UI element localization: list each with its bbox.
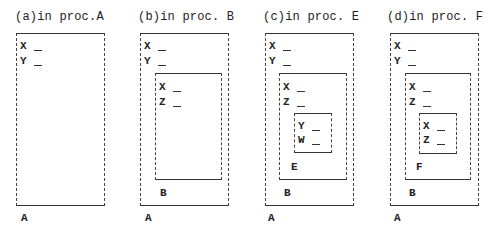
variable-x: X: [144, 40, 166, 52]
variable-z: Z: [423, 134, 445, 146]
value-slot: [283, 49, 291, 51]
value-slot: [34, 49, 42, 51]
variable-w: W: [298, 134, 320, 146]
variable-x: X: [159, 81, 181, 93]
scope-label-b: B: [284, 187, 291, 199]
panel-d-title: (d)in proc. F: [387, 10, 483, 24]
value-slot: [312, 143, 320, 145]
scope-label-e: E: [291, 161, 298, 173]
value-slot: [158, 49, 166, 51]
variable-x: X: [20, 40, 42, 52]
value-slot: [158, 64, 166, 66]
scope-label-b: B: [160, 187, 167, 199]
variable-z: Z: [409, 96, 431, 108]
scope-label-a: A: [21, 212, 28, 224]
value-slot: [297, 90, 305, 92]
variable-z: Z: [159, 96, 181, 108]
variable-y: Y: [394, 55, 416, 67]
scope-label-a: A: [394, 212, 401, 224]
variable-y: Y: [20, 55, 42, 67]
panel-b-title: (b)in proc. B: [138, 10, 234, 24]
value-slot: [312, 129, 320, 131]
panel-c-title: (c)in proc. E: [263, 10, 359, 24]
scope-label-a: A: [268, 212, 275, 224]
scope-label-f: F: [416, 161, 423, 173]
value-slot: [283, 64, 291, 66]
variable-z: Z: [283, 96, 305, 108]
scope-label-b: B: [409, 187, 416, 199]
panel-a-title: (a)in proc.A: [15, 10, 104, 24]
value-slot: [423, 90, 431, 92]
variable-x: X: [394, 40, 416, 52]
variable-x: X: [269, 40, 291, 52]
value-slot: [437, 143, 445, 145]
value-slot: [173, 90, 181, 92]
variable-y: Y: [269, 55, 291, 67]
value-slot: [408, 49, 416, 51]
variable-y: Y: [298, 120, 320, 132]
variable-x: X: [423, 120, 445, 132]
value-slot: [297, 105, 305, 107]
variable-y: Y: [144, 55, 166, 67]
variable-x: X: [283, 81, 305, 93]
value-slot: [437, 129, 445, 131]
value-slot: [408, 64, 416, 66]
value-slot: [173, 105, 181, 107]
value-slot: [34, 64, 42, 66]
scope-box-e: [294, 113, 332, 153]
scope-label-a: A: [145, 212, 152, 224]
value-slot: [423, 105, 431, 107]
variable-x: X: [409, 81, 431, 93]
